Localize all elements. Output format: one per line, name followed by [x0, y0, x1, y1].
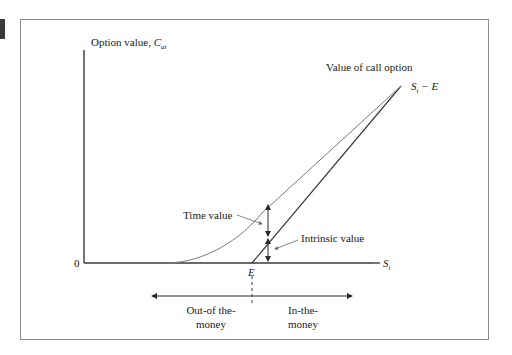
out-of-money-label-line2: money [196, 318, 226, 330]
intrinsic-value-label: Intrinsic value [301, 232, 364, 244]
out-of-money-label-line1: Out-of the- [186, 304, 236, 316]
intrinsic-value-leader [275, 240, 298, 249]
origin-label: 0 [74, 257, 80, 269]
time-value-label: Time value [183, 209, 233, 221]
y-axis-label: Option value, Cat [91, 36, 167, 51]
call-option-diagram: Option value, Cat Value of call option S… [0, 0, 512, 355]
curve-label: Value of call option [326, 61, 413, 73]
time-value-leader [237, 215, 262, 224]
in-money-label-line2: money [288, 318, 318, 330]
strike-label: E [247, 266, 255, 278]
option-value-curve [168, 86, 401, 263]
line-label: St − E [411, 80, 438, 95]
x-axis-label: St [383, 257, 392, 272]
in-money-label-line1: In-the- [288, 304, 318, 316]
